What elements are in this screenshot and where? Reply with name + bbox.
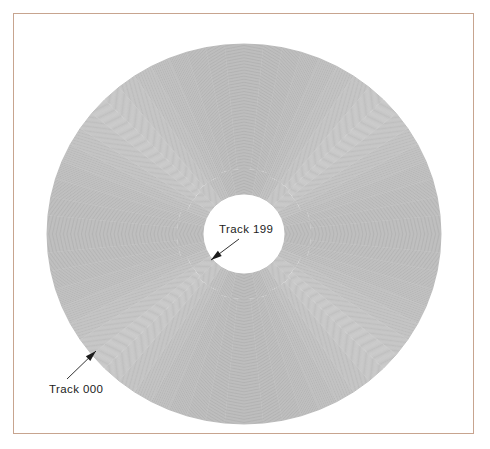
disk-tracks-figure: Track 000 Track 199: [0, 0, 490, 449]
track-199-label: Track 199: [219, 223, 273, 235]
page-root: Track 000 Track 199: [0, 0, 490, 449]
disk-tracks-svg: Track 000 Track 199: [0, 0, 490, 449]
track-000-label: Track 000: [49, 383, 103, 395]
